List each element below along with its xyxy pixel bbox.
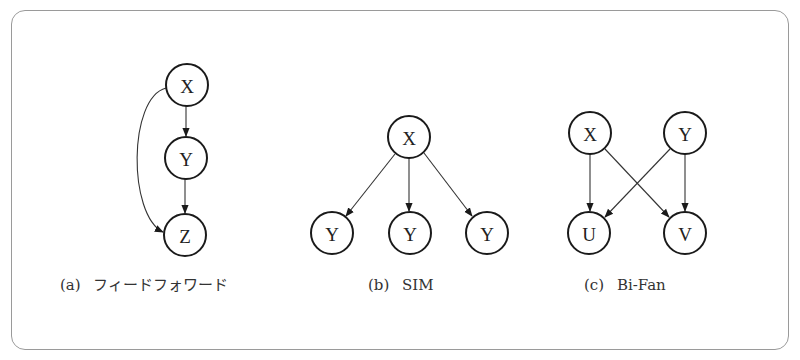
edge-x-to-y3 [424, 153, 472, 216]
node-y2: Y [389, 212, 431, 254]
network-motif-diagram: X Y Z (a) フィードフォワード X Y Y [0, 0, 800, 360]
node-x: X [166, 64, 208, 106]
edge-x-to-y1 [346, 154, 395, 216]
node-y3: Y [466, 212, 508, 254]
caption-a-label: (a) [60, 276, 81, 294]
svg-text:X: X [180, 76, 194, 97]
caption-a-title: フィードフォワード [93, 276, 228, 294]
node-x: X [388, 116, 430, 158]
node-y: Y [664, 112, 706, 154]
svg-text:X: X [583, 124, 597, 145]
node-y: Y [165, 137, 207, 179]
node-z: Z [164, 214, 206, 256]
caption-b: (b) SIM [368, 276, 434, 294]
panel-a-feed-forward: X Y Z (a) フィードフォワード [60, 64, 228, 294]
svg-text:Y: Y [179, 149, 193, 170]
svg-text:Z: Z [179, 226, 191, 247]
node-v: V [664, 212, 706, 254]
svg-text:U: U [582, 224, 596, 245]
caption-a: (a) フィードフォワード [60, 276, 228, 294]
node-y1: Y [311, 212, 353, 254]
caption-b-title: SIM [402, 276, 434, 294]
panel-c-bi-fan: X Y U V (c) Bi-Fan [568, 112, 706, 294]
svg-text:Y: Y [480, 224, 494, 245]
caption-c-title: Bi-Fan [617, 276, 666, 294]
svg-text:Y: Y [678, 124, 692, 145]
caption-c: (c) Bi-Fan [584, 276, 666, 294]
svg-text:V: V [678, 224, 692, 245]
node-u: U [568, 212, 610, 254]
svg-text:Y: Y [403, 224, 417, 245]
svg-text:Y: Y [325, 224, 339, 245]
node-x: X [569, 112, 611, 154]
caption-b-label: (b) [368, 276, 389, 294]
panel-b-sim: X Y Y Y (b) SIM [311, 116, 508, 294]
caption-c-label: (c) [584, 276, 604, 294]
edge-x-to-z-curved [137, 88, 166, 232]
svg-text:X: X [402, 128, 416, 149]
